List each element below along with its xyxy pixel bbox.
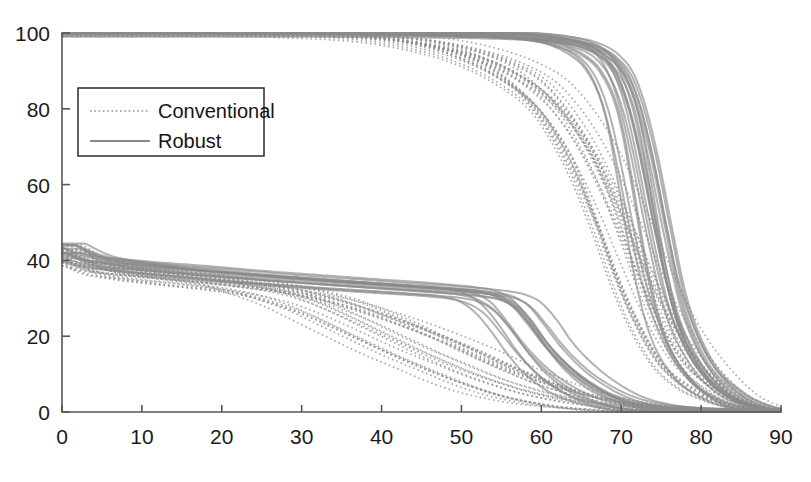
x-tick-label: 40: [370, 425, 393, 448]
x-tick-label: 10: [130, 425, 153, 448]
x-tick-label: 60: [530, 425, 553, 448]
figure-container: 0102030405060708090 020406080100 Convent…: [0, 0, 811, 482]
legend-label-conventional: Conventional: [158, 100, 275, 122]
chart-legend: Conventional Robust: [78, 88, 275, 156]
y-tick-label: 60: [27, 174, 50, 197]
x-tick-label: 50: [450, 425, 473, 448]
x-tick-label: 0: [56, 425, 68, 448]
x-tick-label: 30: [290, 425, 313, 448]
x-tick-label: 70: [610, 425, 633, 448]
x-tick-label: 80: [689, 425, 712, 448]
y-tick-label: 80: [27, 98, 50, 121]
x-tick-label: 90: [769, 425, 792, 448]
y-tick-label: 40: [27, 249, 50, 272]
y-tick-label: 100: [15, 22, 50, 45]
legend-label-robust: Robust: [158, 130, 222, 152]
y-tick-label: 20: [27, 325, 50, 348]
x-tick-label: 20: [210, 425, 233, 448]
y-tick-label: 0: [38, 401, 50, 424]
chart-canvas: 0102030405060708090 020406080100 Convent…: [0, 0, 811, 482]
